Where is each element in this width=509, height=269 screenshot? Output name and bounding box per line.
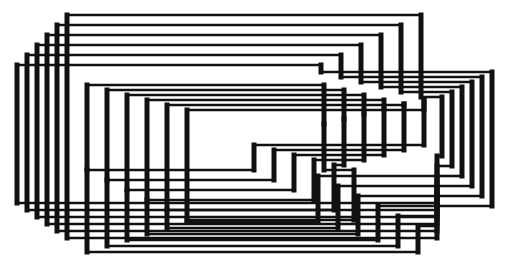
op-art-canvas — [0, 0, 509, 269]
